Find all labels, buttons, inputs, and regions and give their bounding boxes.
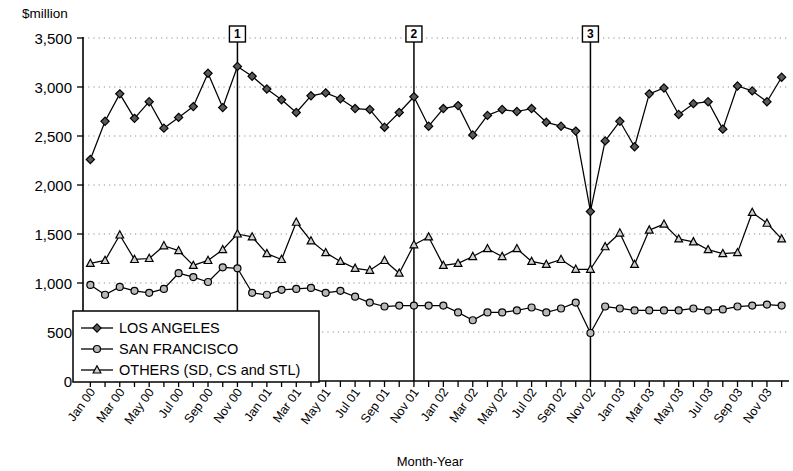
x-tick-label: Jan 02 [418,385,451,424]
data-point-marker [616,229,624,236]
y-tick-label: 3,000 [34,79,72,96]
x-tick-label: Sep 02 [534,386,569,426]
data-point-marker [190,274,197,281]
series-others-sd-cs-and-stl [86,208,785,276]
x-tick-label: Nov 02 [564,385,599,425]
data-point-marker [733,82,741,90]
data-point-marker [116,283,123,290]
data-point-marker [572,127,580,135]
data-point-marker [234,265,241,272]
data-point-marker [87,281,94,288]
data-point-marker [278,286,285,293]
chart-legend: LOS ANGELESSAN FRANCISCOOTHERS (SD, CS a… [73,311,319,382]
series-path [90,66,781,211]
y-tick-label: 2,000 [34,177,72,194]
data-point-marker [94,346,101,353]
data-point-marker [734,303,741,310]
data-point-marker [160,285,167,292]
data-point-marker [455,309,462,316]
data-point-marker [160,242,168,249]
data-point-marker [543,309,550,316]
y-tick-label: 2,500 [34,128,72,145]
data-point-marker [558,305,565,312]
data-point-marker [204,69,212,77]
data-point-marker [734,248,742,255]
line-chart: 05001,0001,5002,0002,5003,0003,500 Jan 0… [0,0,793,471]
data-point-marker [631,260,639,267]
data-point-marker [630,143,638,151]
gridlines [83,38,789,332]
data-point-marker [336,95,344,103]
data-point-marker [778,73,786,81]
data-point-marker [116,90,124,98]
data-point-marker [101,117,109,125]
data-point-marker [498,105,506,113]
data-point-marker [204,256,212,263]
data-point-marker [293,285,300,292]
data-point-marker [572,299,579,306]
x-tick-label: Jan 01 [241,385,274,424]
data-point-marker [233,62,241,70]
y-tick-label: 3,500 [34,30,72,47]
data-point-marker [86,155,94,163]
x-tick-label: Sep 01 [358,386,393,426]
chart-container: 05001,0001,5002,0002,5003,0003,500 Jan 0… [0,0,793,471]
data-point-marker [337,257,345,264]
data-point-marker [249,289,256,296]
data-point-marker [352,293,359,300]
y-tick-label: 0 [64,373,72,390]
data-point-marker [513,107,521,115]
data-point-marker [396,302,403,309]
data-point-marker [454,102,462,110]
data-point-marker [719,306,726,313]
data-point-marker [101,256,109,263]
data-point-marker [631,307,638,314]
event-marker-label: 1 [234,27,241,41]
data-point-marker [528,304,535,311]
data-point-marker [410,302,417,309]
y-tick-label: 1,000 [34,275,72,292]
x-tick-label: Nov 03 [740,385,775,425]
data-point-marker [322,289,329,296]
data-point-marker [557,255,565,262]
x-tick-label: Nov 00 [211,385,246,425]
x-tick-label: Sep 00 [181,386,216,426]
x-tick-label: Jan 03 [594,385,627,424]
data-point-marker [704,98,712,106]
data-point-marker [763,301,770,308]
data-point-marker [646,307,653,314]
data-point-marker [307,284,314,291]
y-axis-tick-labels: 05001,0001,5002,0002,5003,0003,500 [34,30,72,390]
data-point-marker [205,279,212,286]
data-point-marker [337,287,344,294]
data-point-marker [587,329,594,336]
data-point-marker [616,305,623,312]
data-point-marker [175,270,182,277]
data-point-marker [351,104,359,112]
y-tick-label: 500 [47,324,72,341]
data-point-marker [425,302,432,309]
data-point-marker [513,307,520,314]
x-tick-label: May 02 [475,386,510,427]
data-point-marker [484,245,492,252]
data-point-marker [484,309,491,316]
series-lines [86,62,786,336]
data-point-marker [660,84,668,92]
legend-label: SAN FRANCISCO [119,341,238,357]
data-point-marker [366,299,373,306]
x-tick-label: Nov 01 [387,385,422,425]
legend-label: OTHERS (SD, CS and STL) [119,362,300,378]
y-tick-label: 1,500 [34,226,72,243]
x-tick-label: May 01 [298,386,333,427]
data-point-marker [234,230,242,237]
x-axis-title: Month-Year [397,454,464,469]
data-point-marker [704,245,712,252]
x-tick-label: May 03 [651,386,686,427]
data-point-marker [675,307,682,314]
data-point-marker [219,103,227,111]
data-point-marker [498,252,506,259]
data-point-marker [263,291,270,298]
data-point-marker [763,219,771,226]
data-point-marker [586,207,594,215]
data-point-marker [410,241,418,248]
